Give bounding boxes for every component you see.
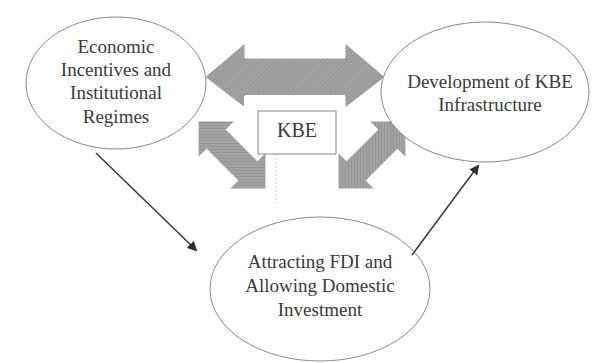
label-line: Institutional <box>30 81 202 104</box>
arrow-left-to-bottom <box>96 153 196 250</box>
label-line: Incentives and <box>30 58 202 81</box>
label-line: Economic <box>30 35 202 58</box>
node-label-economic-incentives: Economic Incentives and Institutional Re… <box>30 35 202 128</box>
label-line: Regimes <box>30 105 202 128</box>
double-arrow-horizontal <box>205 43 385 108</box>
label-line: Attracting FDI and <box>210 250 430 274</box>
label-line: Investment <box>210 298 430 322</box>
node-label-kbe-infrastructure: Development of KBE Infrastructure <box>385 70 595 116</box>
label-line: Development of KBE <box>385 70 595 93</box>
kbe-text: KBE <box>258 118 336 142</box>
node-label-attracting-fdi: Attracting FDI and Allowing Domestic Inv… <box>210 250 430 321</box>
arrow-bottom-to-right <box>412 166 478 255</box>
label-line: Allowing Domestic <box>210 274 430 298</box>
central-label-kbe: KBE <box>258 118 336 142</box>
label-line: Infrastructure <box>385 93 595 116</box>
